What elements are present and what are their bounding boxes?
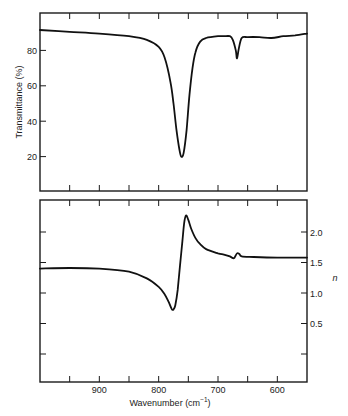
y-tick-label: 2.0 (310, 228, 323, 238)
y-tick-label: 40 (27, 117, 37, 127)
x-tick-label: 900 (92, 385, 107, 395)
top-y-axis-label: Transmittance (%) (14, 65, 24, 138)
bottom-plot-frame (40, 200, 307, 382)
spectrum-figure: 20406080 Transmittance (%) 0.51.01.52.0 … (0, 0, 348, 416)
x-tick-label: 700 (210, 385, 225, 395)
top-y-ticks: 20406080 (27, 46, 46, 162)
x-tick-label: 600 (270, 385, 285, 395)
refractive-index-curve (40, 215, 307, 309)
refractive-index-panel: 0.51.01.52.0 900800700600 n Wavenumber (… (40, 200, 338, 408)
y-tick-label: 20 (27, 152, 37, 162)
y-tick-label: 1.5 (310, 258, 323, 268)
right-y-axis-label: n (332, 273, 337, 283)
x-axis-label: Wavenumber (cm−1) (129, 396, 210, 408)
y-tick-label: 1.0 (310, 289, 323, 299)
x-tick-label: 800 (151, 385, 166, 395)
y-tick-label: 0.5 (310, 319, 323, 329)
y-tick-label: 80 (27, 46, 37, 56)
y-tick-label: 60 (27, 81, 37, 91)
transmittance-curve (40, 30, 307, 157)
transmittance-panel: 20406080 Transmittance (%) (14, 13, 307, 191)
